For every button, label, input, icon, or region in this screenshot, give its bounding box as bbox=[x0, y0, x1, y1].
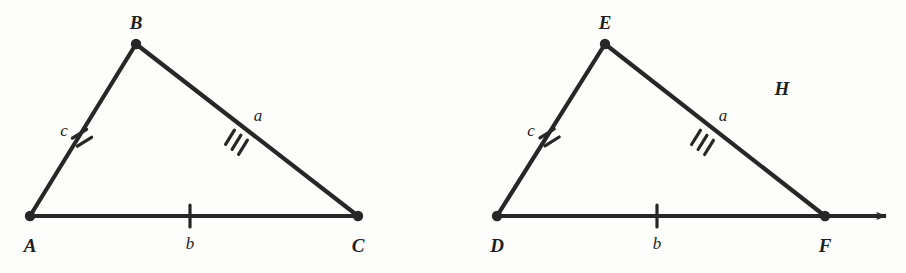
figure-canvas: A B C c a b D E F c a b H bbox=[0, 0, 906, 273]
vertex-d-dot bbox=[492, 211, 502, 221]
geometry-diagram bbox=[0, 0, 906, 273]
vertex-e-dot bbox=[600, 39, 610, 49]
side-label-a-def: a bbox=[719, 107, 728, 124]
vertex-b-dot bbox=[131, 39, 141, 49]
vertex-f-dot bbox=[820, 211, 830, 221]
vertex-label-c: C bbox=[352, 236, 365, 255]
triangle-def bbox=[492, 39, 886, 227]
vertex-c-dot bbox=[353, 211, 363, 221]
side-label-a-abc: a bbox=[254, 107, 263, 124]
vertex-label-d: D bbox=[490, 236, 504, 255]
side-label-b-def: b bbox=[653, 235, 662, 252]
side-a-tick-marks-abc bbox=[226, 130, 248, 154]
triangle-abc bbox=[25, 39, 363, 227]
vertex-label-a: A bbox=[24, 236, 37, 255]
vertex-label-b: B bbox=[130, 13, 143, 32]
side-label-b-abc: b bbox=[186, 235, 195, 252]
plane-label-h: H bbox=[775, 79, 790, 98]
side-label-c-abc: c bbox=[60, 122, 68, 139]
side-a-tick-marks-def bbox=[692, 130, 714, 154]
vertex-label-e: E bbox=[599, 13, 612, 32]
side-label-c-def: c bbox=[527, 122, 535, 139]
side-bc-segment bbox=[136, 44, 358, 216]
vertex-a-dot bbox=[25, 211, 35, 221]
side-ef-segment bbox=[605, 44, 825, 216]
vertex-label-f: F bbox=[819, 236, 832, 255]
